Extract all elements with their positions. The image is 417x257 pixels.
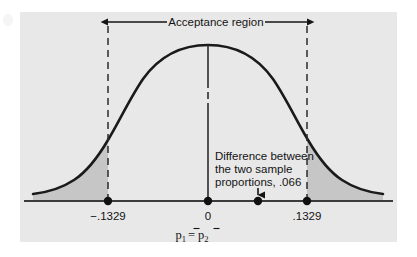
tick-label-center: 0 [205,210,211,222]
marker-center [204,197,212,205]
marker-lower-critical [104,197,112,205]
marker-observed-statistic [254,197,262,205]
acceptance-region-label: Acceptance region [168,16,263,28]
marker-upper-critical [303,197,311,205]
annotation-line-2: the two sample [215,163,292,175]
annotation-line-1: Difference between [215,150,314,162]
tick-label-lower-critical: −.1329 [90,210,126,222]
annotation-line-3: proportions, .066 [215,176,301,188]
normal-distribution-chart: Acceptance region Difference between the… [0,0,417,257]
svg-text:p1=p2: p1=p2 [175,228,208,244]
statistics-figure: Acceptance region Difference between the… [0,0,417,257]
tick-label-upper-critical: .1329 [293,210,322,222]
page-artifact [3,14,13,26]
